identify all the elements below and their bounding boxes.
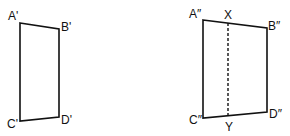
label-d-double-prime: D″ (269, 107, 283, 121)
right-quadrilateral-outline (203, 20, 267, 118)
label-c-prime: C' (7, 117, 18, 131)
left-quadrilateral-outline (20, 23, 59, 121)
label-y: Y (225, 120, 233, 134)
label-a-double-prime: A″ (189, 7, 202, 21)
label-b-prime: B' (61, 20, 71, 34)
label-a-prime: A' (8, 9, 18, 23)
right-quadrilateral: A″ B″ C″ D″ X Y (189, 7, 283, 134)
diagram-canvas: A' B' C' D' A″ B″ C″ D″ X Y (0, 0, 290, 136)
label-x: X (224, 8, 232, 22)
label-b-double-prime: B″ (268, 19, 281, 33)
label-c-double-prime: C″ (189, 113, 203, 127)
label-d-prime: D' (61, 113, 72, 127)
left-quadrilateral: A' B' C' D' (7, 9, 72, 131)
